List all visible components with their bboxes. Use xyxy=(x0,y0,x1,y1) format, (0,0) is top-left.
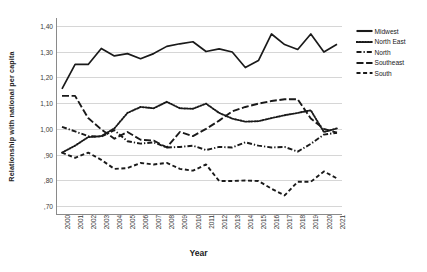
x-axis-tick-label: 2004 xyxy=(116,215,123,229)
x-axis-tick-label: 2000 xyxy=(64,215,71,229)
y-axis-tick-label: ,80 xyxy=(44,177,53,184)
legend-item-label: Southeast xyxy=(373,59,404,66)
legend-item-north[interactable]: North xyxy=(356,47,427,58)
y-axis-title: Relationship with national per capita xyxy=(0,0,22,232)
chart-legend: MidwestNorth EastNorthSoutheastSouth xyxy=(356,26,427,79)
x-axis-tick-label: 2016 xyxy=(273,215,280,229)
series-line-midwest xyxy=(62,34,337,89)
legend-line-swatch xyxy=(356,58,373,68)
legend-line-swatch xyxy=(356,47,373,57)
y-axis-tick-labels: 1,401,301,201,101,00,90,80,70 xyxy=(22,0,56,232)
x-axis-tick-label: 2018 xyxy=(299,215,306,229)
x-axis-tick-label: 2013 xyxy=(234,215,241,229)
legend-item-south[interactable]: South xyxy=(356,68,427,79)
legend-item-midwest[interactable]: Midwest xyxy=(356,26,427,37)
x-axis-tick-label: 2010 xyxy=(195,215,202,229)
x-axis-tick-label: 2005 xyxy=(129,215,136,229)
y-axis-tick-label: ,70 xyxy=(44,203,53,210)
y-axis-tick-label: 1,10 xyxy=(40,100,53,107)
x-axis-tick-label: 2011 xyxy=(208,215,215,229)
y-axis-tick-label: 1,20 xyxy=(40,74,53,81)
x-axis-tick-label: 2017 xyxy=(286,215,293,229)
x-axis-tick-label: 2002 xyxy=(90,215,97,229)
x-axis-tick-label: 2020 xyxy=(326,215,333,229)
x-axis-title: Year xyxy=(56,248,341,258)
series-line-southeast xyxy=(62,96,337,148)
x-axis-tick-label: 2015 xyxy=(260,215,267,229)
x-axis-tick-label: 2009 xyxy=(181,215,188,229)
legend-line-swatch xyxy=(356,68,373,78)
legend-line-swatch xyxy=(356,37,373,47)
y-axis-tick-label: 1,00 xyxy=(40,125,53,132)
x-axis-tick-label: 2001 xyxy=(77,215,84,229)
x-axis-tick-label: 2007 xyxy=(155,215,162,229)
y-axis-tick-label: 1,30 xyxy=(40,48,53,55)
y-axis-title-label: Relationship with national per capita xyxy=(7,51,16,181)
y-axis-tick-label: ,90 xyxy=(44,151,53,158)
x-axis-tick-labels: 2000200120022003200420052006200720082009… xyxy=(56,215,341,245)
legend-item-label: North East xyxy=(373,38,406,45)
line-chart: Relationship with national per capita 1,… xyxy=(0,0,427,272)
legend-item-label: North xyxy=(373,49,391,56)
series-line-south xyxy=(62,153,337,196)
series-layer xyxy=(57,18,342,214)
plot-area xyxy=(56,18,342,215)
x-axis-tick-label: 2021 xyxy=(339,215,346,229)
legend-line-swatch xyxy=(356,26,373,36)
x-axis-tick-label: 2012 xyxy=(221,215,228,229)
x-axis-tick-label: 2008 xyxy=(168,215,175,229)
series-line-north-east xyxy=(62,102,337,153)
x-axis-tick-label: 2014 xyxy=(247,215,254,229)
x-axis-tick-label: 2006 xyxy=(142,215,149,229)
legend-item-north-east[interactable]: North East xyxy=(356,37,427,48)
legend-item-label: South xyxy=(373,70,392,77)
x-axis-tick-label: 2019 xyxy=(312,215,319,229)
legend-item-southeast[interactable]: Southeast xyxy=(356,58,427,69)
x-axis-tick-label: 2003 xyxy=(103,215,110,229)
y-axis-tick-label: 1,40 xyxy=(40,22,53,29)
legend-item-label: Midwest xyxy=(373,28,399,35)
